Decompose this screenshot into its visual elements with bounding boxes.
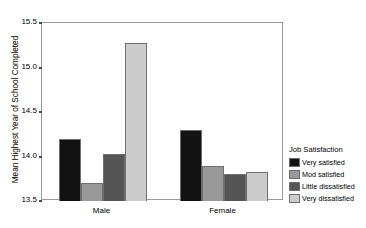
bar [246, 172, 268, 201]
y-tick-mark [39, 111, 42, 113]
y-tick-mark [39, 200, 42, 202]
legend-label: Very dissatisfied [302, 194, 354, 203]
plot-area: 13.514.014.515.015.5 [41, 22, 283, 200]
x-axis-label-male: Male [93, 206, 110, 215]
bar [81, 183, 103, 201]
bar [103, 154, 125, 201]
bar [224, 174, 246, 201]
y-tick-mark [39, 22, 42, 24]
legend-swatch [289, 194, 300, 203]
bar [180, 130, 202, 201]
legend-swatch [289, 170, 300, 179]
bar [202, 166, 224, 201]
y-tick-label: 14.0 [21, 151, 37, 160]
y-tick-label: 13.5 [21, 195, 37, 204]
x-axis-label-female: Female [209, 206, 236, 215]
y-tick-label: 14.5 [21, 106, 37, 115]
legend: Job Satisfaction Very satisfiedMod satis… [289, 145, 365, 206]
plot-inner: 13.514.014.515.015.5 [42, 23, 282, 199]
y-tick-label: 15.5 [21, 17, 37, 26]
legend-items: Very satisfiedMod satisfiedLittle dissat… [289, 158, 365, 203]
legend-item[interactable]: Very dissatisfied [289, 194, 365, 203]
legend-swatch [289, 158, 300, 167]
bar [125, 43, 147, 201]
legend-item[interactable]: Little dissatisfied [289, 182, 365, 191]
legend-item[interactable]: Very satisfied [289, 158, 365, 167]
legend-label: Very satisfied [302, 158, 345, 167]
bar [59, 139, 81, 201]
legend-label: Mod satisfied [302, 170, 344, 179]
legend-item[interactable]: Mod satisfied [289, 170, 365, 179]
legend-swatch [289, 182, 300, 191]
y-tick-mark [39, 156, 42, 158]
y-axis-title: Mean Highest Year of School Completed [11, 12, 20, 207]
y-tick-label: 15.0 [21, 62, 37, 71]
bar-chart: Mean Highest Year of School Completed 13… [0, 0, 366, 228]
y-tick-mark [39, 67, 42, 69]
legend-title: Job Satisfaction [289, 145, 365, 154]
legend-label: Little dissatisfied [302, 182, 355, 191]
